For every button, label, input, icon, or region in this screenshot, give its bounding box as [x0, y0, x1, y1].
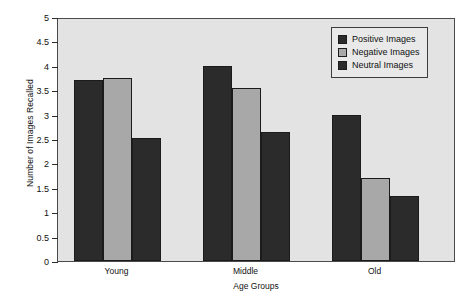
legend-item: Negative Images [338, 46, 420, 59]
bar [332, 115, 361, 261]
legend-swatch [338, 48, 347, 57]
legend-item: Neutral Images [338, 59, 420, 72]
bar [103, 78, 132, 261]
legend-swatch [338, 61, 347, 70]
x-axis-tick-label: Old [368, 266, 381, 276]
legend-label: Negative Images [352, 47, 420, 58]
y-axis-tick-label: 2.5 [36, 135, 49, 146]
y-axis-tick-mark [52, 189, 58, 190]
y-axis-tick-mark [52, 213, 58, 214]
bar [132, 138, 161, 261]
bar [361, 178, 390, 261]
bar [232, 88, 261, 261]
bar-chart: Number of Images Recalled 00.511.522.533… [0, 0, 463, 296]
y-axis-tick-label: 0 [44, 257, 49, 268]
legend-label: Neutral Images [352, 60, 413, 71]
legend-item: Positive Images [338, 33, 420, 46]
y-axis-tick-label: 1 [44, 208, 49, 219]
y-axis-tick-label: 4 [44, 62, 49, 73]
y-axis-tick-mark [52, 116, 58, 117]
y-axis-tick-label: 3.5 [36, 86, 49, 97]
y-axis-tick-mark [52, 42, 58, 43]
bar [261, 132, 290, 261]
legend: Positive ImagesNegative ImagesNeutral Im… [331, 27, 428, 78]
x-axis-tick-label: Middle [233, 266, 258, 276]
y-axis-tick-mark [52, 262, 58, 263]
x-axis-tick-label: Young [105, 266, 129, 276]
y-axis-tick-label: 2 [44, 159, 49, 170]
y-axis-tick-mark [52, 67, 58, 68]
bar [390, 196, 419, 261]
y-axis-tick-mark [52, 140, 58, 141]
y-axis-title: Number of Images Recalled [25, 33, 35, 233]
bar [74, 80, 103, 261]
y-axis-tick-label: 0.5 [36, 233, 49, 244]
bar [203, 66, 232, 261]
legend-swatch [338, 35, 347, 44]
y-axis-tick-label: 5 [44, 13, 49, 24]
y-axis-tick-mark [52, 238, 58, 239]
x-axis-title: Age Groups [57, 281, 455, 291]
y-axis-tick-label: 1.5 [36, 184, 49, 195]
y-axis-tick-mark [52, 18, 58, 19]
y-axis-tick-label: 3 [44, 111, 49, 122]
y-axis-tick-label: 4.5 [36, 37, 49, 48]
y-axis-tick-mark [52, 164, 58, 165]
y-axis-tick-mark [52, 91, 58, 92]
legend-label: Positive Images [352, 34, 416, 45]
